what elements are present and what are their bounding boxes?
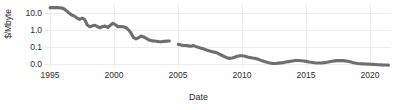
x-tick-label: 2010 bbox=[220, 71, 264, 80]
series-path bbox=[50, 8, 169, 42]
data-series-line bbox=[45, 5, 391, 68]
x-axis-title: Date bbox=[0, 92, 397, 102]
x-tick-label: 2000 bbox=[92, 71, 136, 80]
y-axis-tick-labels: 10.0 1.0 0.1 0.0 bbox=[0, 5, 42, 68]
x-tick-label: 2020 bbox=[348, 71, 392, 80]
y-tick-label: 10.0 bbox=[2, 9, 42, 18]
x-tick-label: 1995 bbox=[28, 71, 72, 80]
x-tick-label: 2005 bbox=[156, 71, 200, 80]
series-path bbox=[178, 44, 388, 65]
y-tick-label: 0.1 bbox=[2, 43, 42, 52]
y-tick-label: 1.0 bbox=[2, 26, 42, 35]
x-tick-label: 2015 bbox=[284, 71, 328, 80]
chart-container: $/Mbyte 10.0 1.0 0.1 0.0 1995 2000 2005 … bbox=[0, 0, 397, 110]
plot-area bbox=[45, 5, 391, 68]
y-tick-label: 0.0 bbox=[2, 60, 42, 69]
